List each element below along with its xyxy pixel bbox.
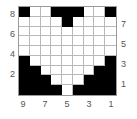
grid-cell: [19, 17, 30, 27]
grid-cell: [105, 17, 116, 27]
grid-cell: [30, 27, 41, 37]
grid-cell: [94, 66, 105, 76]
grid-cell: [62, 27, 73, 37]
grid-cell: [105, 66, 116, 76]
grid-cell: [41, 66, 52, 76]
grid-cell: [105, 36, 116, 46]
grid-cell: [30, 17, 41, 27]
grid-cell: [62, 36, 73, 46]
grid-cell: [105, 46, 116, 56]
grid-cell: [51, 66, 62, 76]
grid-cell: [19, 36, 30, 46]
grid-cell: [73, 66, 84, 76]
grid-cell: [73, 27, 84, 37]
grid-cell: [62, 46, 73, 56]
grid-cell: [73, 46, 84, 56]
grid-cell: [84, 66, 95, 76]
grid-cell: [30, 36, 41, 46]
grid-cell: [19, 75, 30, 85]
grid-cell: [94, 7, 105, 17]
grid-cell: [105, 27, 116, 37]
grid-cell: [73, 36, 84, 46]
grid-cell: [41, 46, 52, 56]
grid-cell: [62, 17, 73, 27]
grid-cell: [73, 75, 84, 85]
grid-cell: [94, 17, 105, 27]
plot-area: [18, 6, 117, 96]
bottom-axis-tick-4: 1: [104, 99, 118, 109]
grid-cell: [51, 85, 62, 95]
grid-cell: [105, 75, 116, 85]
grid-cell: [41, 27, 52, 37]
grid-cell: [94, 56, 105, 66]
grid-cell: [84, 7, 95, 17]
grid-cell: [19, 27, 30, 37]
grid-cell: [84, 46, 95, 56]
grid-cell: [51, 56, 62, 66]
grid-cell: [105, 56, 116, 66]
grid-cell: [62, 75, 73, 85]
grid-cell: [73, 56, 84, 66]
grid-cell: [19, 66, 30, 76]
grid-cell: [41, 7, 52, 17]
bottom-axis-tick-2: 5: [60, 99, 74, 109]
grid-cell: [41, 75, 52, 85]
grid-cell: [41, 56, 52, 66]
grid-cell: [30, 7, 41, 17]
grid-cell: [62, 85, 73, 95]
grid-cell: [62, 7, 73, 17]
grid-cell: [30, 46, 41, 56]
grid-cell: [62, 66, 73, 76]
cell-grid: [19, 7, 116, 95]
grid-cell: [73, 7, 84, 17]
grid-cell: [73, 85, 84, 95]
right-axis-tick-2: 3: [121, 59, 135, 69]
grid-cell: [41, 85, 52, 95]
grid-cell: [19, 56, 30, 66]
right-axis-tick-1: 5: [121, 39, 135, 49]
grid-cell: [84, 36, 95, 46]
grid-cell: [105, 85, 116, 95]
bottom-axis-tick-0: 9: [16, 99, 30, 109]
grid-cell: [94, 75, 105, 85]
grid-cell: [84, 27, 95, 37]
grid-cell: [94, 85, 105, 95]
grid-cell: [19, 7, 30, 17]
grid-cell: [51, 17, 62, 27]
grid-cell: [94, 27, 105, 37]
grid-cell: [19, 85, 30, 95]
grid-cell: [84, 85, 95, 95]
grid-cell: [62, 56, 73, 66]
grid-cell: [94, 36, 105, 46]
grid-cell: [41, 36, 52, 46]
grid-cell: [30, 56, 41, 66]
grid-cell: [51, 36, 62, 46]
bottom-axis-tick-1: 7: [38, 99, 52, 109]
grid-cell: [30, 66, 41, 76]
grid-cell: [51, 46, 62, 56]
grid-cell: [51, 75, 62, 85]
grid-cell: [19, 46, 30, 56]
left-axis-tick-2: 4: [1, 49, 15, 59]
grid-cell: [94, 46, 105, 56]
grid-cell: [73, 17, 84, 27]
left-axis-tick-3: 2: [1, 69, 15, 79]
grid-cell: [51, 7, 62, 17]
grid-cell: [105, 7, 116, 17]
right-axis-tick-0: 7: [121, 19, 135, 29]
left-axis-tick-1: 6: [1, 29, 15, 39]
pixel-grid-figure: 8 6 4 2 7 5 3 1 9 7 5 3 1: [0, 0, 137, 119]
grid-cell: [84, 75, 95, 85]
right-axis-tick-3: 1: [121, 79, 135, 89]
bottom-axis-tick-3: 3: [82, 99, 96, 109]
left-axis-tick-0: 8: [1, 9, 15, 19]
grid-cell: [30, 85, 41, 95]
grid-cell: [51, 27, 62, 37]
grid-cell: [30, 75, 41, 85]
grid-cell: [41, 17, 52, 27]
grid-cell: [84, 17, 95, 27]
grid-cell: [84, 56, 95, 66]
